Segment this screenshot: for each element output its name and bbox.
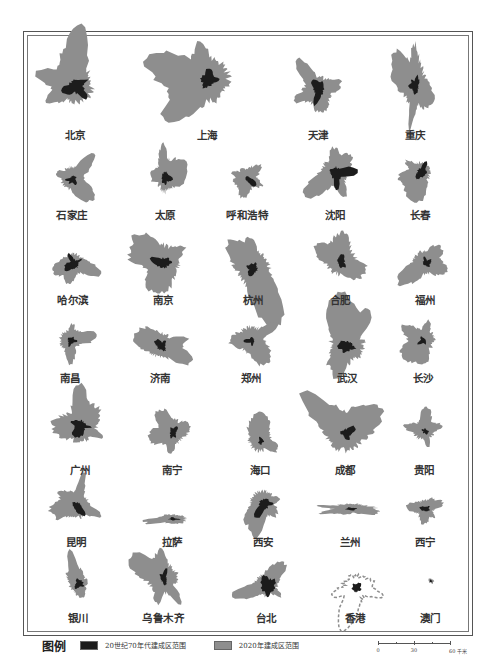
city-label: 哈尔滨 bbox=[57, 292, 89, 307]
built-area-2020 bbox=[66, 549, 88, 598]
built-area-1970s bbox=[352, 582, 362, 592]
legend-swatch-2020 bbox=[214, 641, 232, 650]
built-area-2020 bbox=[143, 514, 188, 524]
city-label: 杭州 bbox=[243, 292, 264, 307]
scale-bar: 0 30 60 千米 bbox=[378, 639, 468, 659]
built-area-2020 bbox=[397, 245, 447, 287]
built-area-2020 bbox=[246, 412, 278, 453]
city-shapes bbox=[0, 0, 496, 667]
scale-tick bbox=[450, 641, 451, 645]
scale-label-60: 60 千米 bbox=[449, 647, 467, 654]
city-footprint bbox=[243, 489, 280, 538]
scale-tick-minor bbox=[396, 642, 397, 644]
built-area-2020 bbox=[150, 142, 187, 194]
city-label: 郑州 bbox=[241, 370, 262, 385]
city-label: 天津 bbox=[308, 127, 329, 142]
legend: 图例 20世纪70年代建成区范围 2020年建成区范围 bbox=[42, 638, 327, 652]
built-area-2020 bbox=[232, 561, 287, 599]
city-label: 上海 bbox=[197, 127, 218, 142]
city-footprint bbox=[56, 153, 96, 202]
scale-tick-minor bbox=[432, 642, 433, 644]
city-label: 呼和浩特 bbox=[226, 207, 268, 222]
city-label: 济南 bbox=[150, 370, 171, 385]
city-label: 西安 bbox=[253, 534, 274, 549]
city-label: 长春 bbox=[410, 207, 431, 222]
legend-title: 图例 bbox=[42, 637, 66, 654]
city-footprint bbox=[246, 412, 278, 453]
legend-label-1970s: 20世纪70年代建成区范围 bbox=[105, 640, 186, 650]
city-label: 长沙 bbox=[413, 370, 434, 385]
city-footprint bbox=[299, 390, 384, 453]
city-label: 沈阳 bbox=[325, 207, 346, 222]
city-label: 西宁 bbox=[415, 534, 436, 549]
city-footprint bbox=[400, 319, 436, 364]
legend-swatch-1970s bbox=[80, 641, 98, 650]
city-footprint bbox=[129, 548, 182, 605]
built-area-2020 bbox=[148, 409, 191, 454]
city-label: 香港 bbox=[345, 610, 366, 625]
built-area-2020 bbox=[143, 41, 232, 123]
city-label: 重庆 bbox=[405, 127, 426, 142]
city-footprint bbox=[143, 514, 188, 524]
city-label: 太原 bbox=[155, 207, 176, 222]
city-label: 贵阳 bbox=[414, 462, 435, 477]
city-footprint bbox=[398, 160, 431, 203]
city-footprint bbox=[232, 561, 287, 599]
built-area-2020 bbox=[299, 390, 384, 453]
city-label: 南昌 bbox=[60, 370, 81, 385]
city-footprint bbox=[317, 503, 381, 515]
built-area-2020 bbox=[52, 253, 101, 285]
city-footprint bbox=[403, 407, 443, 447]
city-footprint bbox=[133, 326, 193, 365]
scale-tick bbox=[414, 641, 415, 645]
city-footprint bbox=[303, 146, 358, 198]
city-footprint bbox=[428, 578, 434, 584]
city-label: 兰州 bbox=[340, 534, 361, 549]
city-footprint bbox=[314, 231, 368, 281]
built-area-2020 bbox=[129, 548, 182, 605]
city-footprint bbox=[148, 409, 191, 454]
city-label: 南京 bbox=[153, 292, 174, 307]
city-footprint bbox=[150, 142, 187, 194]
city-footprint bbox=[228, 322, 279, 366]
built-area-2020 bbox=[48, 472, 102, 520]
city-label: 银川 bbox=[68, 610, 89, 625]
city-label: 北京 bbox=[65, 127, 86, 142]
city-footprint bbox=[231, 164, 263, 199]
city-footprint bbox=[127, 233, 186, 294]
built-area-2020 bbox=[225, 237, 284, 326]
city-label: 乌鲁木齐 bbox=[142, 610, 184, 625]
city-footprint bbox=[35, 23, 95, 104]
city-label: 成都 bbox=[335, 462, 356, 477]
city-footprint bbox=[397, 245, 447, 287]
city-label: 台北 bbox=[256, 610, 277, 625]
city-footprint bbox=[294, 58, 342, 113]
city-label: 合肥 bbox=[330, 292, 351, 307]
legend-label-2020: 2020年建成区范围 bbox=[239, 640, 299, 650]
built-area-2020 bbox=[400, 319, 436, 364]
city-footprint bbox=[59, 323, 97, 365]
built-area-2020 bbox=[59, 323, 97, 365]
city-footprint bbox=[391, 41, 435, 130]
built-area-2020 bbox=[403, 407, 443, 447]
city-footprint bbox=[51, 383, 104, 443]
city-footprint bbox=[143, 41, 232, 123]
scale-label-0: 0 bbox=[376, 647, 379, 653]
city-label: 昆明 bbox=[66, 534, 87, 549]
city-label: 南宁 bbox=[162, 462, 183, 477]
city-footprint bbox=[52, 253, 101, 285]
city-label: 武汉 bbox=[337, 370, 358, 385]
city-label: 福州 bbox=[415, 292, 436, 307]
city-label: 拉萨 bbox=[162, 534, 183, 549]
city-label: 海口 bbox=[250, 462, 271, 477]
city-label: 广州 bbox=[70, 462, 91, 477]
city-footprint bbox=[66, 549, 88, 598]
scale-label-30: 30 bbox=[411, 647, 417, 653]
built-area-2020 bbox=[231, 164, 263, 199]
scale-tick bbox=[378, 641, 379, 645]
city-label: 石家庄 bbox=[56, 207, 88, 222]
city-footprint bbox=[48, 472, 102, 520]
city-label: 澳门 bbox=[420, 610, 441, 625]
built-area-2020 bbox=[228, 322, 279, 366]
city-footprint bbox=[225, 237, 284, 326]
